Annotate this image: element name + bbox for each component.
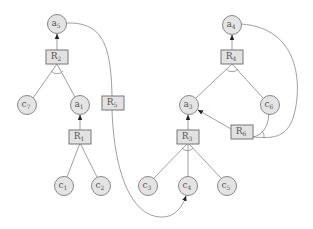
rule-R2: R2	[46, 50, 68, 64]
edge-r5-c4	[112, 110, 186, 217]
rule-R1: R1	[69, 130, 91, 144]
label-subscript: 1	[80, 135, 84, 142]
label-subscript: 5	[57, 22, 61, 29]
rule-graph-diagram: a5c7a1c1c2a4a3c6c3c4c5 R2R1R5R4R3R6	[0, 0, 313, 229]
rule-R3: R3	[177, 130, 199, 144]
rule-R5: R5	[102, 96, 124, 110]
node-c2: c2	[92, 177, 111, 196]
label-subscript: 1	[80, 103, 84, 110]
label-subscript: 4	[232, 23, 236, 30]
rule-R4: R4	[221, 50, 243, 64]
rule-R6: R6	[231, 125, 253, 139]
label-subscript: 5	[113, 101, 117, 108]
edge-a1-r2	[57, 64, 75, 97]
label-subscript: 3	[189, 103, 193, 110]
label-subscript: 7	[27, 103, 31, 110]
label-subscript: 6	[242, 130, 246, 137]
label-subscript: 6	[270, 103, 274, 110]
label-subscript: 2	[57, 55, 61, 62]
edge-c6-r4	[232, 64, 263, 98]
label-subscript: 3	[148, 184, 152, 191]
edge-c2-r1	[80, 143, 97, 177]
edge-c6-r6	[253, 114, 269, 137]
node-c3: c3	[139, 177, 158, 196]
node-c7: c7	[18, 96, 37, 115]
and-arc-r4	[226, 69, 238, 72]
label-subscript: 1	[64, 184, 68, 191]
edge-c7-r2	[33, 64, 57, 98]
label-subscript: 4	[232, 55, 236, 62]
label-subscript: 2	[101, 184, 105, 191]
node-a4: a4	[223, 16, 242, 35]
node-c4: c4	[179, 177, 198, 196]
node-a5: a5	[48, 15, 67, 34]
node-a3: a3	[180, 96, 199, 115]
label-subscript: 5	[227, 184, 231, 191]
edge-r6-a3	[198, 110, 231, 129]
node-c6: c6	[261, 96, 280, 115]
label-subscript: 4	[188, 184, 192, 191]
edge-a4-r6	[241, 24, 297, 138]
node-a1: a1	[71, 96, 90, 115]
node-c5: c5	[218, 177, 237, 196]
edge-c1-r1	[67, 143, 80, 177]
edge-a5-r5	[66, 23, 112, 96]
node-c1: c1	[55, 177, 74, 196]
edge-c3-r3	[154, 143, 188, 178]
and-arc-r3	[182, 148, 193, 151]
label-subscript: 3	[188, 135, 192, 142]
